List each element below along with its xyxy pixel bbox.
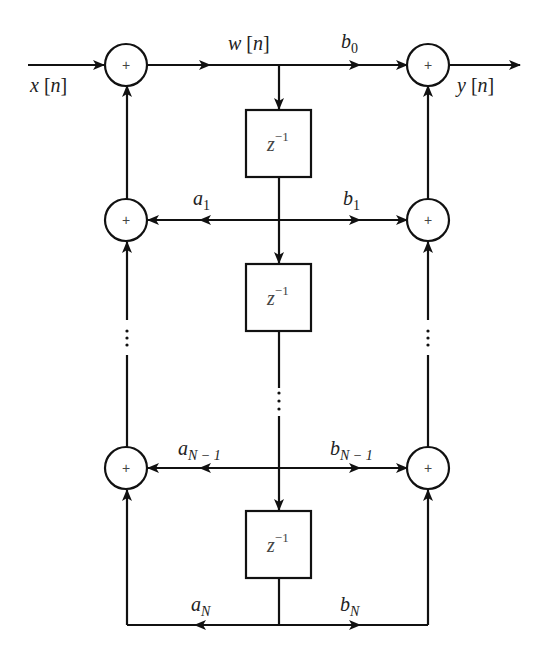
- direct-form-ii-diagram: x [n] w [n] b0 y [n] z−1 z−1 z−1: [0, 0, 544, 655]
- adder-right-1: +: [407, 199, 449, 241]
- right-feedforward-column: [426, 86, 429, 625]
- adder-left-0: +: [105, 44, 147, 86]
- plus-icon: +: [122, 460, 130, 476]
- adder-right-n-minus-1: +: [407, 447, 449, 489]
- adder-left-n-minus-1: +: [105, 447, 147, 489]
- plus-icon: +: [122, 57, 130, 73]
- adder-left-1: +: [105, 199, 147, 241]
- output-label: y [n]: [455, 74, 494, 97]
- plus-icon: +: [424, 212, 432, 228]
- coef-b0: b0: [341, 30, 358, 56]
- plus-icon: +: [424, 460, 432, 476]
- coef-a1: a1: [193, 187, 210, 213]
- coef-bN: bN: [340, 593, 360, 619]
- state-label: w [n]: [228, 32, 270, 54]
- coef-b-n-minus-1: bN − 1: [330, 437, 373, 463]
- delay-block-n: z−1: [246, 511, 311, 578]
- coef-b1: b1: [343, 187, 360, 213]
- left-feedback-column: [125, 86, 128, 625]
- plus-icon: +: [424, 57, 432, 73]
- coef-a-n-minus-1: aN − 1: [178, 437, 221, 463]
- coef-aN: aN: [191, 593, 211, 619]
- plus-icon: +: [122, 212, 130, 228]
- input-label: x [n]: [29, 74, 67, 96]
- adder-right-0: +: [407, 44, 449, 86]
- delay-block-1: z−1: [246, 110, 311, 177]
- delay-block-2: z−1: [246, 264, 311, 331]
